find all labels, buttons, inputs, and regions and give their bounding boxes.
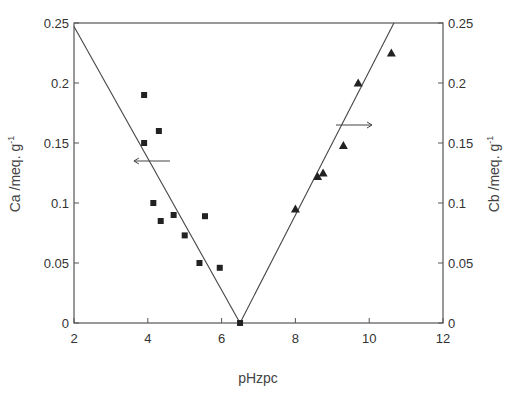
square-marker bbox=[158, 218, 164, 224]
x-tick-label: 10 bbox=[362, 331, 376, 346]
y-right-tick-label: 0.1 bbox=[448, 196, 466, 211]
triangle-marker bbox=[339, 141, 348, 149]
square-marker bbox=[141, 140, 147, 146]
y-left-tick-label: 0.05 bbox=[44, 256, 69, 271]
chart: 24681012 00.050.10.150.20.25 00.050.10.1… bbox=[0, 0, 517, 399]
square-marker bbox=[202, 213, 208, 219]
y-right-tick-label: 0.25 bbox=[448, 16, 473, 31]
fit-lines bbox=[74, 23, 394, 323]
y-right-tick-label: 0.05 bbox=[448, 256, 473, 271]
y-left-tick-label: 0.1 bbox=[51, 196, 69, 211]
y-right-tick-label: 0.2 bbox=[448, 76, 466, 91]
plot-border bbox=[74, 23, 443, 323]
y-left-tick-label: 0 bbox=[62, 316, 69, 331]
y-axis-left-label: Ca /meq. g-1 bbox=[6, 136, 23, 213]
plot-frame bbox=[74, 23, 443, 323]
square-marker bbox=[196, 260, 202, 266]
square-marker bbox=[237, 320, 243, 326]
x-tick-label: 6 bbox=[218, 331, 225, 346]
y-left-tick-label: 0.2 bbox=[51, 76, 69, 91]
square-marker bbox=[182, 232, 188, 238]
x-tick-label: 2 bbox=[70, 331, 77, 346]
square-marker bbox=[171, 212, 177, 218]
y-axis-right-label: Cb /meq. g-1 bbox=[485, 136, 502, 213]
fit-line bbox=[240, 23, 394, 323]
triangle-marker bbox=[354, 79, 363, 87]
x-tick-label: 12 bbox=[436, 331, 450, 346]
square-marker bbox=[156, 128, 162, 134]
triangle-marker bbox=[387, 49, 396, 57]
fit-line bbox=[74, 27, 240, 323]
y-right-tick-label: 0 bbox=[448, 316, 455, 331]
y-right-tick-label: 0.15 bbox=[448, 136, 473, 151]
square-marker bbox=[217, 265, 223, 271]
x-axis-label: pHzpc bbox=[238, 370, 278, 386]
x-tick-label: 4 bbox=[144, 331, 151, 346]
square-marker bbox=[141, 92, 147, 98]
x-tick-label: 8 bbox=[292, 331, 299, 346]
axis-arrows bbox=[134, 122, 372, 164]
square-marker bbox=[150, 200, 156, 206]
y-left-tick-label: 0.25 bbox=[44, 16, 69, 31]
triangle-marker bbox=[319, 169, 328, 177]
data-markers bbox=[141, 49, 396, 327]
y-left-tick-label: 0.15 bbox=[44, 136, 69, 151]
x-axis-ticks: 24681012 bbox=[70, 318, 450, 346]
